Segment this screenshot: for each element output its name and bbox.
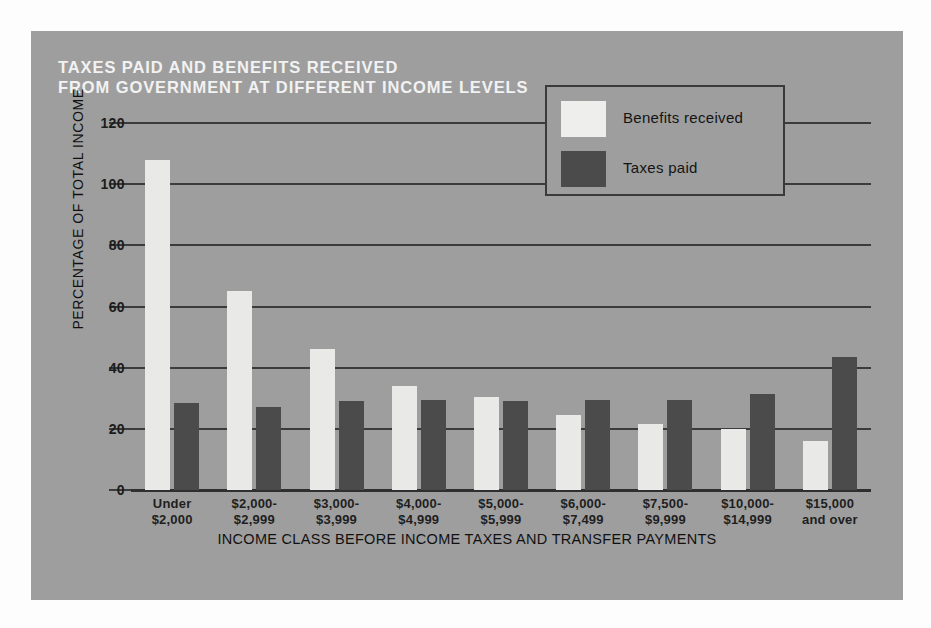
y-axis-title: PERCENTAGE OF TOTAL INCOME — [70, 59, 86, 359]
bar-taxes-2 — [339, 401, 364, 490]
bar-taxes-6 — [667, 400, 692, 490]
legend: Benefits receivedTaxes paid — [545, 85, 785, 196]
bar-benefits-2 — [310, 349, 335, 490]
y-tick-label-0: 0 — [65, 482, 125, 498]
legend-label-1: Taxes paid — [623, 159, 698, 176]
bar-taxes-1 — [256, 407, 281, 490]
bar-taxes-3 — [421, 400, 446, 490]
y-tick-label-40: 40 — [65, 360, 125, 376]
x-axis-title: INCOME CLASS BEFORE INCOME TAXES AND TRA… — [31, 531, 903, 547]
bar-benefits-6 — [638, 424, 663, 490]
bar-benefits-7 — [721, 429, 746, 490]
legend-label-0: Benefits received — [623, 109, 743, 126]
gridline-80 — [131, 244, 871, 246]
chart-panel: TAXES PAID AND BENEFITS RECEIVED FROM GO… — [31, 31, 903, 600]
legend-swatch-taxes — [561, 151, 606, 187]
chart-title-line-1: TAXES PAID AND BENEFITS RECEIVED — [58, 57, 678, 77]
bar-taxes-8 — [832, 357, 857, 490]
bar-benefits-3 — [392, 386, 417, 490]
bar-benefits-4 — [474, 397, 499, 490]
bar-benefits-5 — [556, 415, 581, 490]
bar-benefits-0 — [145, 160, 170, 490]
category-label-line: and over — [781, 512, 879, 528]
y-tick-label-20: 20 — [65, 421, 125, 437]
x-category-label-8: $15,000and over — [781, 496, 879, 528]
legend-swatch-benefits — [561, 101, 606, 137]
bar-taxes-4 — [503, 401, 528, 490]
category-label-line: $15,000 — [781, 496, 879, 512]
bar-benefits-8 — [803, 441, 828, 490]
bar-taxes-0 — [174, 403, 199, 490]
bar-benefits-1 — [227, 291, 252, 490]
bar-taxes-7 — [750, 394, 775, 490]
figure: TAXES PAID AND BENEFITS RECEIVED FROM GO… — [0, 0, 931, 628]
bar-taxes-5 — [585, 400, 610, 490]
